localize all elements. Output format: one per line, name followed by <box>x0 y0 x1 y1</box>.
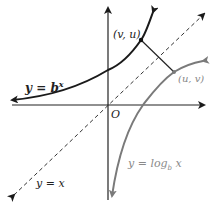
diagram-canvas: (v, u) (u, v) O y = bx y = logb x y = x <box>0 0 214 210</box>
label-identity-line: y = x <box>35 177 65 190</box>
label-exp-curve: y = bx <box>24 79 64 95</box>
point-u-v <box>172 70 176 74</box>
reflection-segment <box>141 40 174 72</box>
label-log-curve: y = logb x <box>127 157 183 172</box>
label-point-u-v: (u, v) <box>178 73 204 84</box>
label-origin: O <box>111 108 120 121</box>
label-point-v-u: (v, u) <box>113 28 141 41</box>
